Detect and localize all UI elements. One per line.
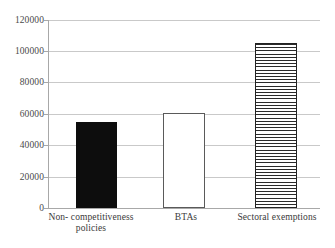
y-tick-mark-100000	[44, 51, 48, 52]
y-tick-label-60000: 60000	[20, 109, 44, 119]
y-tick-label-120000: 120000	[15, 15, 44, 25]
y-tick-label-20000: 20000	[20, 172, 44, 182]
x-tick-label-sectoral-exemptions: Sectoral exemptions	[221, 212, 333, 223]
bar-sectoral-exemptions	[255, 43, 297, 208]
bar-btas	[163, 113, 205, 208]
x-tick-label-non-competitiveness-policies: Non- competitiveness policies	[26, 212, 156, 234]
y-axis-line	[48, 20, 49, 208]
y-tick-label-100000: 100000	[15, 46, 44, 56]
y-tick-mark-40000	[44, 145, 48, 146]
bar-non-competitiveness-policies	[76, 122, 117, 208]
y-tick-label-80000: 80000	[20, 77, 44, 87]
y-tick-mark-120000	[44, 20, 48, 21]
x-tick-label-btas: BTAs	[143, 212, 229, 223]
bar-chart: 120000 100000 80000 60000 40000 20000 0 …	[0, 0, 335, 248]
y-tick-mark-0	[44, 208, 48, 209]
gridline-0	[48, 208, 320, 209]
y-tick-mark-20000	[44, 177, 48, 178]
y-tick-label-40000: 40000	[20, 140, 44, 150]
plot-area	[48, 20, 320, 208]
y-tick-mark-80000	[44, 82, 48, 83]
gridline-120000	[48, 20, 320, 21]
y-tick-mark-60000	[44, 114, 48, 115]
